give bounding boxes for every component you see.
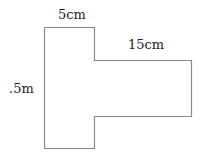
label-arm-length: 15cm xyxy=(128,38,164,51)
diagram-canvas: 5cm 15cm .5m xyxy=(0,0,203,153)
t-shape-figure xyxy=(0,0,203,153)
label-height: .5m xyxy=(9,82,34,95)
t-shape-outline xyxy=(45,28,192,149)
label-top-width: 5cm xyxy=(58,8,86,21)
